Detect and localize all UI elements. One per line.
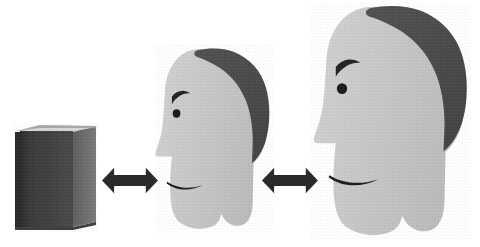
book-front-cover: [20, 131, 73, 227]
book-side-pages: [72, 127, 96, 227]
illustration-canvas: Book and two human head profiles connect…: [0, 0, 480, 247]
head-medium: [155, 49, 269, 229]
head-large-figure: [314, 6, 467, 235]
head-large: [314, 6, 467, 235]
head-medium-figure: [155, 49, 269, 229]
illustration-svg: Book and two human head profiles connect…: [0, 0, 480, 247]
book-spine: [15, 132, 21, 227]
book: [14, 124, 98, 232]
